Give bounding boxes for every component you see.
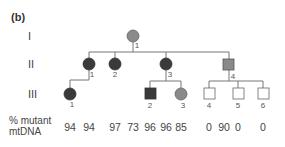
individual-III-6-number: 6	[261, 101, 266, 110]
value-III-2: 96	[144, 121, 156, 133]
row-label-line-1: % mutant	[9, 115, 51, 126]
individual-II-4-number: 4	[231, 72, 236, 81]
individual-III-4-male-symbol	[204, 88, 215, 99]
individual-III-2-number: 2	[148, 101, 153, 110]
individual-III-1-female-symbol	[64, 88, 76, 100]
value-III-1: 94	[64, 121, 76, 133]
value-III-3: 85	[175, 121, 187, 133]
value-II-3: 96	[160, 121, 172, 133]
value-III-5: 0	[235, 121, 241, 133]
value-III-4: 0	[206, 121, 212, 133]
individual-I-1-number: 1	[135, 41, 140, 50]
value-I-1: 73	[127, 121, 139, 133]
row-label-mutant-mtdna: % mutant mtDNA	[9, 115, 51, 137]
individual-II-3-female-symbol	[160, 58, 172, 70]
individual-II-4-male-symbol	[223, 59, 234, 70]
individual-III-3-number: 3	[181, 101, 186, 110]
row-label-line-2: mtDNA	[9, 126, 51, 137]
individual-III-3-female-symbol	[175, 88, 187, 100]
individual-III-5-male-symbol	[233, 88, 244, 99]
value-II-1: 94	[83, 121, 95, 133]
individual-III-5-number: 5	[236, 101, 241, 110]
individual-II-2-number: 2	[113, 70, 118, 79]
individual-III-2-male-symbol	[145, 88, 156, 99]
individual-II-1-number: 1	[90, 70, 95, 79]
individual-II-2-female-symbol	[109, 58, 121, 70]
individual-III-1-number: 1	[70, 100, 75, 109]
individual-III-4-number: 4	[207, 101, 212, 110]
individual-II-1-female-symbol	[83, 58, 95, 70]
individual-III-6-male-symbol	[258, 88, 269, 99]
value-III-6: 0	[260, 121, 266, 133]
value-II-2: 97	[109, 121, 121, 133]
individual-II-3-number: 3	[168, 70, 173, 79]
value-II-4: 90	[218, 121, 230, 133]
